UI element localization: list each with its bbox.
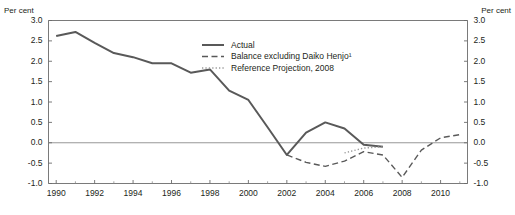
- y-tick-label-right: 0.0: [474, 138, 500, 147]
- y-tick-label-right: 1.0: [474, 98, 500, 107]
- plot-area: [0, 0, 515, 215]
- y-tick-label-left: 0.0: [17, 138, 43, 147]
- x-axis-ticks: [56, 180, 460, 184]
- x-tick-label: 2002: [267, 189, 307, 198]
- x-tick-label: 2008: [382, 189, 422, 198]
- y-tick-label-right: -0.5: [474, 159, 500, 168]
- x-tick-label: 2000: [228, 189, 268, 198]
- plot-frame: [49, 21, 468, 184]
- x-tick-label: 1998: [190, 189, 230, 198]
- series-line-2: [287, 135, 460, 178]
- y-tick-label-left: 2.5: [17, 36, 43, 45]
- y-tick-label-right: 2.5: [474, 36, 500, 45]
- x-tick-label: 2010: [421, 189, 461, 198]
- x-tick-label: 1992: [75, 189, 115, 198]
- y-tick-label-left: 3.0: [17, 16, 43, 25]
- y-tick-label-left: 2.0: [17, 57, 43, 66]
- chart-figure: Per cent Per cent 3.02.52.01.51.00.50.0-…: [0, 0, 515, 215]
- y-tick-label-right: 1.5: [474, 77, 500, 86]
- y-tick-label-right: 0.5: [474, 118, 500, 127]
- y-tick-label-right: 3.0: [474, 16, 500, 25]
- legend-label: Reference Projection, 2008: [231, 63, 334, 73]
- legend-swatches: [202, 45, 224, 68]
- y-tick-label-left: 1.5: [17, 77, 43, 86]
- legend-label: Balance excluding Daiko Henjo¹: [231, 51, 352, 61]
- y-tick-label-right: -1.0: [474, 179, 500, 188]
- y-tick-label-left: 1.0: [17, 98, 43, 107]
- y-tick-label-right: 2.0: [474, 57, 500, 66]
- y-tick-label-left: 0.5: [17, 118, 43, 127]
- y-tick-label-left: -0.5: [17, 159, 43, 168]
- x-tick-label: 2006: [344, 189, 384, 198]
- x-tick-label: 2004: [305, 189, 345, 198]
- y-axis-ticks: [49, 21, 468, 184]
- legend-label: Actual: [231, 40, 255, 50]
- x-tick-label: 1994: [113, 189, 153, 198]
- y-tick-label-left: -1.0: [17, 179, 43, 188]
- x-tick-label: 1996: [152, 189, 192, 198]
- x-tick-label: 1990: [36, 189, 76, 198]
